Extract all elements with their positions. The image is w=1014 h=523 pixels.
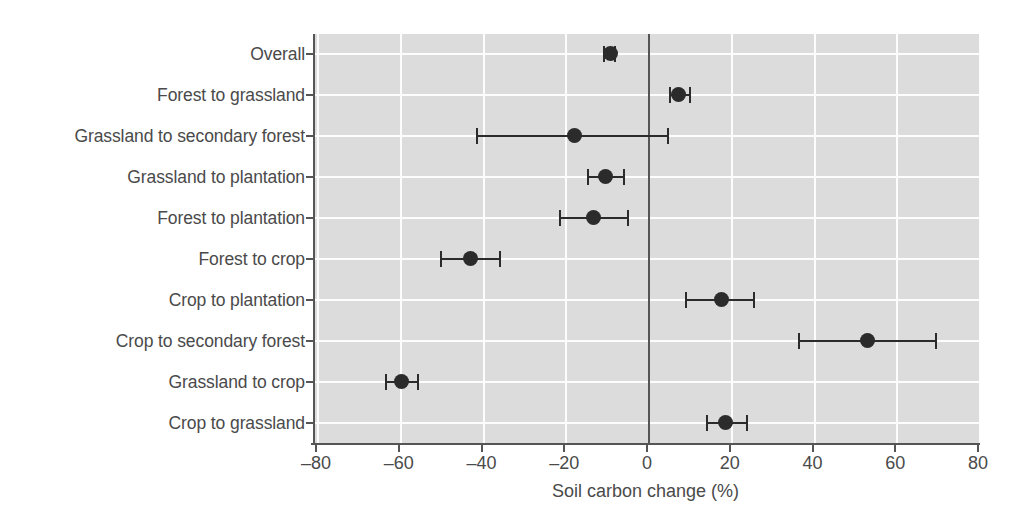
x-axis-tick-label: 0 xyxy=(607,453,687,474)
x-axis-tick-label: ‒40 xyxy=(442,453,522,474)
data-row xyxy=(315,247,980,271)
y-axis-tick xyxy=(306,135,315,137)
x-axis-tick-label: ‒80 xyxy=(276,453,356,474)
x-axis-title: Soil carbon change (%) xyxy=(313,481,978,502)
data-point-marker xyxy=(671,87,686,102)
y-axis-tick xyxy=(306,94,315,96)
data-point-marker xyxy=(714,292,729,307)
x-axis-tick-label: 20 xyxy=(690,453,770,474)
ci-lower-cap xyxy=(685,292,687,308)
x-axis-tick xyxy=(894,443,896,452)
ci-upper-cap xyxy=(689,87,691,103)
ci-lower-cap xyxy=(798,333,800,349)
plot-panel-inner xyxy=(315,34,980,443)
ci-lower-cap xyxy=(476,128,478,144)
ci-lower-cap xyxy=(385,374,387,390)
x-axis-tick xyxy=(729,443,731,452)
x-axis-tick xyxy=(398,443,400,452)
x-axis-tick-label: ‒60 xyxy=(359,453,439,474)
y-axis-label: Grassland to secondary forest xyxy=(74,126,305,146)
plot-panel xyxy=(313,34,980,443)
ci-upper-cap xyxy=(499,251,501,267)
y-axis-label: Overall xyxy=(250,44,305,64)
y-axis-tick xyxy=(306,299,315,301)
data-row xyxy=(315,165,980,189)
forest-plot-figure: OverallForest to grasslandGrassland to s… xyxy=(0,0,1014,523)
y-axis-tick xyxy=(306,258,315,260)
x-axis-tick-label: 40 xyxy=(773,453,853,474)
y-axis-label: Forest to plantation xyxy=(157,208,305,228)
data-row xyxy=(315,206,980,230)
data-point-marker xyxy=(598,169,613,184)
y-axis-label: Crop to secondary forest xyxy=(116,331,305,351)
ci-lower-cap xyxy=(706,415,708,431)
ci-upper-cap xyxy=(746,415,748,431)
ci-upper-cap xyxy=(627,210,629,226)
x-axis-tick xyxy=(481,443,483,452)
x-axis-tick-label: 60 xyxy=(855,453,935,474)
y-axis-label: Grassland to plantation xyxy=(127,167,305,187)
y-axis-tick xyxy=(306,340,315,342)
y-axis-label: Crop to grassland xyxy=(169,413,305,433)
x-axis-tick xyxy=(646,443,648,452)
ci-lower-cap xyxy=(559,210,561,226)
data-row xyxy=(315,288,980,312)
ci-upper-cap xyxy=(667,128,669,144)
y-axis-tick xyxy=(306,53,315,55)
x-axis-tick xyxy=(812,443,814,452)
y-axis-tick xyxy=(306,381,315,383)
ci-upper-cap xyxy=(623,169,625,185)
x-axis-tick xyxy=(563,443,565,452)
x-axis-tick xyxy=(315,443,317,452)
data-point-marker xyxy=(567,128,582,143)
data-point-marker xyxy=(586,210,601,225)
data-row xyxy=(315,329,980,353)
data-row xyxy=(315,370,980,394)
data-row xyxy=(315,411,980,435)
ci-lower-cap xyxy=(587,169,589,185)
data-point-marker xyxy=(603,46,618,61)
data-point-marker xyxy=(718,415,733,430)
data-point-marker xyxy=(394,374,409,389)
data-row xyxy=(315,83,980,107)
y-axis-tick xyxy=(306,217,315,219)
data-point-marker xyxy=(860,333,875,348)
x-axis-tick xyxy=(977,443,979,452)
data-point-marker xyxy=(463,251,478,266)
x-axis-tick-label: 80 xyxy=(938,453,1014,474)
y-axis-tick xyxy=(306,176,315,178)
y-axis-label: Crop to plantation xyxy=(169,290,305,310)
y-axis-label: Forest to grassland xyxy=(157,85,305,105)
y-axis-category-labels: OverallForest to grasslandGrassland to s… xyxy=(0,34,305,443)
data-row xyxy=(315,124,980,148)
y-axis-label: Forest to crop xyxy=(198,249,305,269)
ci-upper-cap xyxy=(753,292,755,308)
ci-lower-cap xyxy=(440,251,442,267)
ci-upper-cap xyxy=(417,374,419,390)
data-row xyxy=(315,42,980,66)
y-axis-tick xyxy=(306,422,315,424)
ci-upper-cap xyxy=(935,333,937,349)
y-axis-label: Grassland to crop xyxy=(169,372,305,392)
x-axis-tick-label: ‒20 xyxy=(524,453,604,474)
